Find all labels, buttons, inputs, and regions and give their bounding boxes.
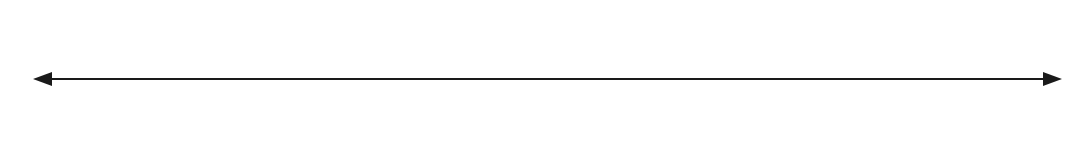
right-arrow-icon <box>1043 72 1062 86</box>
number-line-diagram <box>0 0 1087 160</box>
left-arrow-icon <box>33 72 52 86</box>
number-line-axis <box>0 0 1087 160</box>
